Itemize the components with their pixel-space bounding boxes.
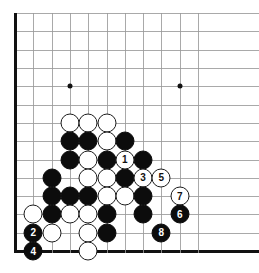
stone-white-move-3: 3 (134, 168, 153, 187)
stone-black (42, 168, 61, 187)
move-number-label: 7 (177, 191, 183, 201)
stone-white (97, 168, 116, 187)
stone-white-move-1: 1 (115, 150, 134, 169)
hoshi-star-point (177, 84, 182, 89)
stone-black (42, 205, 61, 224)
stone-white (97, 187, 116, 206)
grid-line-vertical (161, 13, 162, 253)
stone-white-move-7: 7 (170, 187, 189, 206)
stone-white (97, 113, 116, 132)
move-number-label: 1 (122, 155, 128, 165)
stone-white (79, 242, 98, 261)
go-board-diagram: 13576284 (0, 0, 259, 273)
stone-white (60, 205, 79, 224)
move-number-label: 5 (159, 173, 165, 183)
stone-white (97, 132, 116, 151)
stone-black (79, 132, 98, 151)
stone-black (60, 132, 79, 151)
stone-black (97, 223, 116, 242)
stone-black (97, 150, 116, 169)
stone-black (115, 168, 134, 187)
stone-black (79, 187, 98, 206)
stone-black-move-8: 8 (152, 223, 171, 242)
move-number-label: 3 (140, 173, 146, 183)
stone-white (79, 223, 98, 242)
stone-white-move-5: 5 (152, 168, 171, 187)
stone-black (115, 132, 134, 151)
stone-black-move-4: 4 (24, 242, 43, 261)
stone-black (134, 187, 153, 206)
stone-black-move-6: 6 (170, 205, 189, 224)
stone-white (79, 168, 98, 187)
stone-black (42, 187, 61, 206)
stone-white (79, 113, 98, 132)
stone-black (134, 150, 153, 169)
stone-black-move-2: 2 (24, 223, 43, 242)
stone-white (79, 205, 98, 224)
stone-white (115, 187, 134, 206)
move-number-label: 8 (159, 228, 165, 238)
grid-line-vertical (198, 13, 199, 253)
board-edge-left (14, 13, 17, 253)
stone-black (134, 205, 153, 224)
move-number-label: 6 (177, 209, 183, 219)
hoshi-star-point (67, 84, 72, 89)
stone-black (97, 205, 116, 224)
move-number-label: 4 (31, 246, 37, 256)
stone-white (42, 223, 61, 242)
move-number-label: 2 (31, 228, 37, 238)
stone-black (60, 187, 79, 206)
stone-white (24, 205, 43, 224)
stone-white (79, 150, 98, 169)
stone-white (60, 113, 79, 132)
stone-black (60, 150, 79, 169)
